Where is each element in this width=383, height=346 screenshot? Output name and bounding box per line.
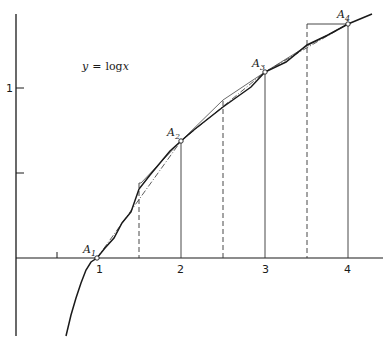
x-tick-label-4: 4 [344,263,351,276]
equation-label: y=logx [81,60,130,73]
label-A3: A3 [251,57,265,72]
label-A2: A2 [166,126,180,141]
x-tick-label-1: 1 [96,263,103,276]
x-tick-label-3: 3 [262,263,269,276]
log-curve-diagram: 1 1 2 3 4 A1 A2 A3 A4 y=logx [0,0,383,346]
label-A4: A4 [336,8,350,23]
label-A1: A1 [82,243,96,258]
y-tick-label-1: 1 [6,82,13,95]
x-tick-label-2: 2 [177,263,184,276]
